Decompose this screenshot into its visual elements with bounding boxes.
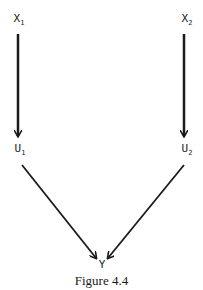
node-x1-label: X (14, 12, 21, 25)
figure-caption: Figure 4.4 (0, 273, 203, 289)
edge-u2-y (108, 165, 184, 258)
node-u2-label: U (182, 142, 189, 155)
node-y: Y (99, 258, 106, 271)
node-x2: X2 (182, 12, 193, 27)
node-u1-subscript: 1 (21, 149, 25, 157)
node-u2: U2 (182, 142, 193, 157)
figure-4-4-diagram: X1 X2 U1 U2 Y Figure 4.4 (0, 0, 203, 290)
node-u1: U1 (15, 142, 26, 157)
node-x1-subscript: 1 (20, 19, 24, 27)
node-x2-label: X (182, 12, 189, 25)
edges-layer (0, 0, 203, 290)
node-u2-subscript: 2 (188, 149, 192, 157)
node-x1: X1 (14, 12, 25, 27)
node-y-label: Y (99, 258, 106, 271)
edge-u1-y (22, 165, 96, 258)
node-u1-label: U (15, 142, 22, 155)
node-x2-subscript: 2 (188, 19, 192, 27)
